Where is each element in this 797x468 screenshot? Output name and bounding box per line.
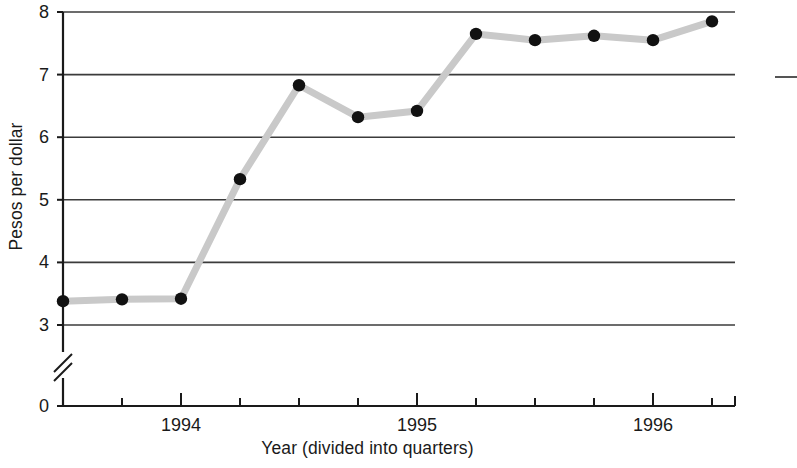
data-point[interactable] — [175, 293, 187, 305]
y-tick-label-3: 3 — [15, 316, 49, 334]
data-point[interactable] — [411, 105, 423, 117]
data-point[interactable] — [116, 293, 128, 305]
y-axis-title: Pesos per dollar — [6, 87, 27, 287]
line-chart: 0345678 199419951996 Pesos per dollar Ye… — [0, 0, 797, 468]
gridline-group — [63, 12, 735, 325]
data-point-group — [57, 15, 718, 307]
axis-break-icon — [54, 354, 72, 381]
y-tick-label-7: 7 — [15, 66, 49, 84]
data-point[interactable] — [293, 79, 305, 91]
x-axis-title: Year (divided into quarters) — [0, 438, 735, 459]
y-tick-label-8: 8 — [15, 3, 49, 21]
x-tick-label-1994: 1994 — [136, 416, 226, 434]
axis-break-slash-1 — [54, 354, 72, 372]
series-line — [63, 21, 712, 301]
data-point[interactable] — [647, 34, 659, 46]
data-series-group — [63, 21, 712, 301]
data-point[interactable] — [529, 34, 541, 46]
data-point[interactable] — [706, 15, 718, 27]
data-point[interactable] — [234, 173, 246, 185]
data-point[interactable] — [57, 295, 69, 307]
data-point[interactable] — [588, 30, 600, 42]
x-tick-label-1995: 1995 — [372, 416, 462, 434]
data-point[interactable] — [352, 111, 364, 123]
data-point[interactable] — [470, 28, 482, 40]
y-tick-label-0: 0 — [15, 397, 49, 415]
x-tick-label-1996: 1996 — [608, 416, 698, 434]
x-tick-group — [63, 393, 735, 406]
chart-canvas — [0, 0, 797, 468]
